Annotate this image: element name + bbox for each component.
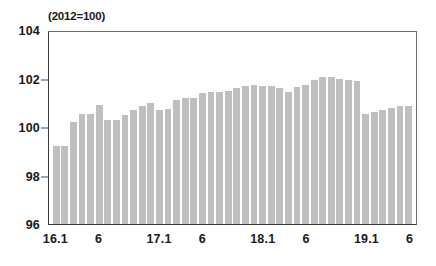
x-axis: 16.1617.1618.1619.16 [0, 232, 436, 256]
bar [319, 77, 326, 224]
bar [405, 106, 412, 224]
bar [165, 109, 172, 224]
bar [354, 81, 361, 224]
bar [173, 100, 180, 224]
bar [130, 110, 137, 224]
bar [294, 87, 301, 224]
bar [190, 98, 197, 224]
bar [147, 103, 154, 224]
bar [251, 85, 258, 224]
bar [285, 92, 292, 224]
bar [259, 86, 266, 224]
y-tick-label: 104 [19, 24, 40, 38]
y-tick-label: 102 [19, 73, 40, 87]
bar [336, 79, 343, 225]
y-axis: 9698100102104 [0, 0, 44, 266]
bar [371, 112, 378, 224]
bar [225, 91, 232, 224]
bar [156, 110, 163, 224]
y-tick-label: 98 [26, 170, 40, 184]
chart-figure: (2012=100) 9698100102104 16.1617.1618.16… [0, 0, 436, 266]
bar [328, 77, 335, 224]
bar [70, 122, 77, 224]
x-tick-label: 19.1 [354, 232, 379, 246]
bar [362, 114, 369, 224]
bar [87, 114, 94, 224]
bar [208, 92, 215, 224]
bar [276, 88, 283, 224]
y-tick-label: 100 [19, 121, 40, 135]
bar [397, 106, 404, 224]
x-tick-label: 6 [406, 232, 413, 246]
bar [379, 110, 386, 224]
plot-area [48, 31, 417, 225]
bar [61, 146, 68, 224]
bar [199, 93, 206, 224]
y-tick-mark [41, 128, 48, 129]
bar [268, 86, 275, 224]
unit-note: (2012=100) [48, 10, 105, 22]
bar [122, 115, 129, 224]
bar [113, 120, 120, 224]
bar [53, 146, 60, 224]
bar [79, 114, 86, 224]
x-tick-label: 18.1 [250, 232, 275, 246]
x-tick-label: 6 [302, 232, 309, 246]
bar [242, 86, 249, 224]
x-tick-label: 6 [199, 232, 206, 246]
bar [96, 105, 103, 224]
bar [388, 108, 395, 224]
x-tick-label: 6 [95, 232, 102, 246]
y-tick-label: 96 [26, 218, 40, 232]
bar [216, 92, 223, 224]
bar-series [49, 32, 416, 224]
y-tick-mark [41, 176, 48, 177]
bar [345, 80, 352, 224]
x-tick-label: 16.1 [43, 232, 68, 246]
bar [104, 120, 111, 224]
y-tick-mark [41, 79, 48, 80]
bar [139, 106, 146, 224]
bar [182, 98, 189, 224]
bar [233, 88, 240, 224]
x-tick-label: 17.1 [146, 232, 171, 246]
bar [311, 80, 318, 224]
bar [302, 85, 309, 224]
